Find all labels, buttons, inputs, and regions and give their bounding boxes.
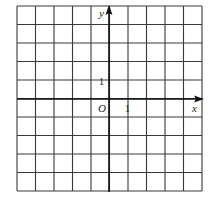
y-unit-tick-label: 1: [99, 76, 104, 87]
y-axis-label: y: [98, 7, 104, 19]
coordinate-plane: y x O 1 1: [0, 0, 211, 210]
x-unit-tick-label: 1: [125, 103, 130, 114]
x-axis-label: x: [191, 102, 197, 114]
origin-label: O: [98, 102, 106, 114]
